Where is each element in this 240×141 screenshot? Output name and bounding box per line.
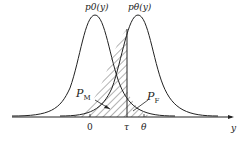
axis-label-y: y: [231, 124, 236, 133]
diagram-graphic: [0, 0, 240, 141]
detection-diagram: p0(y) pθ(y) PM PF 0 τ θ y: [0, 0, 240, 141]
tick-zero: 0: [87, 123, 93, 132]
p0-label: p0(y): [85, 3, 109, 12]
ptheta-label: pθ(y): [128, 3, 151, 12]
tick-tau: τ: [124, 123, 129, 132]
tick-theta: θ: [141, 123, 146, 132]
miss-probability-label: PM: [76, 88, 91, 102]
miss-region: [70, 29, 127, 117]
false-alarm-probability-label: PF: [147, 91, 159, 105]
